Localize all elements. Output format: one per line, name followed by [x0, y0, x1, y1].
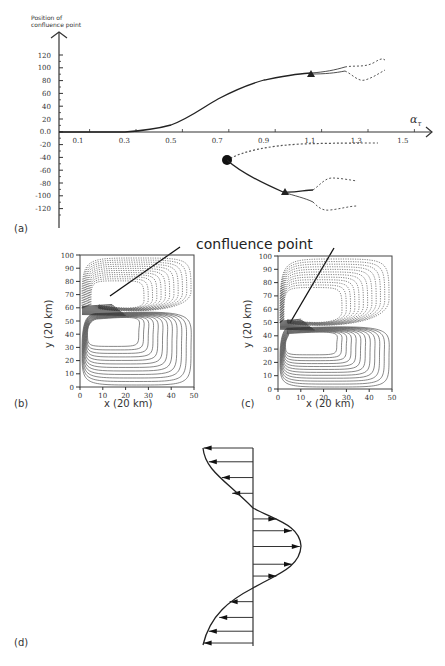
y-tick-label: 90	[65, 265, 74, 273]
y-tick-label: 70	[263, 292, 272, 300]
contour-line-solid	[84, 314, 178, 375]
panel-b: 010203040506070809010001020304050 x (20 …	[14, 252, 198, 410]
x-tick-label: 10	[296, 394, 305, 402]
panel-label-b: (b)	[14, 398, 28, 409]
y-axis-label-c: y (20 km)	[242, 300, 253, 348]
arrowhead-icon	[209, 459, 217, 464]
confluence-point-annotation: confluence point	[196, 236, 313, 252]
contour-line-dashed	[281, 269, 371, 324]
contour-line-dashed	[284, 288, 342, 323]
panel-label-d: (d)	[14, 637, 28, 648]
y-tick-label: 40	[263, 332, 272, 340]
jet-contour	[82, 309, 118, 310]
x-tick-label: 0	[78, 392, 82, 400]
x-tick-label: 1.3	[351, 137, 362, 145]
panel-c: 010203040506070809010001020304050 x (20 …	[241, 253, 396, 410]
y-tick-label: 80	[65, 278, 74, 286]
contour-line-solid	[284, 330, 357, 366]
contour-line-solid	[88, 317, 140, 346]
y-tick-label: 50	[263, 319, 272, 327]
contours-b	[82, 258, 191, 385]
y-tick-label: 80	[263, 279, 272, 287]
y-tick-label: 0.0	[40, 128, 51, 136]
x-tick-label: 0.7	[212, 137, 223, 145]
arrowhead-icon	[219, 615, 227, 620]
x-tick-label: 0	[276, 394, 280, 402]
arrowhead-icon	[284, 528, 292, 533]
y-tick-label: 60	[263, 306, 272, 314]
y-tick-label: 10	[65, 370, 74, 378]
y-tick-label: 100	[61, 252, 74, 260]
y-axis-label-b: y (20 km)	[43, 300, 54, 348]
arrowhead-icon	[222, 475, 230, 480]
contour-line-dashed	[84, 264, 178, 310]
arrowhead-icon	[209, 629, 217, 634]
y-axis-label-line1: Position of	[31, 14, 63, 21]
y-tick-label: 30	[263, 346, 272, 354]
panel-d: (d)	[14, 446, 301, 649]
y-tick-label: -20	[40, 141, 51, 149]
contour-line-solid	[282, 328, 376, 378]
panel-label-a: (a)	[14, 223, 28, 234]
y-tick-label: -100	[35, 192, 51, 200]
contour-line-dashed	[280, 259, 389, 325]
unstable-branch-dashed	[227, 143, 378, 160]
y-axis-label-line2: confluence point	[31, 21, 82, 29]
y-tick-label: -80	[40, 180, 51, 188]
x-tick-label: 0.5	[165, 137, 176, 145]
y-tick-label: 70	[65, 291, 74, 299]
y-tick-label: 0	[268, 386, 272, 394]
y-tick-label: 90	[263, 266, 272, 274]
x-tick-label: 1.5	[397, 137, 408, 145]
contour-line-solid	[286, 332, 338, 355]
arrowhead-icon	[204, 641, 212, 646]
contour-line-dashed	[87, 270, 165, 309]
lower-branch-dashed-b	[313, 202, 357, 210]
x-tick-label: 0.3	[119, 137, 130, 145]
x-tick-label: 40	[365, 394, 374, 402]
x-axis-label-b: x (20 km)	[104, 398, 152, 409]
y-tick-label: 100	[38, 64, 51, 72]
y-tick-label: 60	[65, 304, 74, 312]
x-tick-label: 40	[167, 392, 176, 400]
y-tick-label: 100	[259, 253, 272, 261]
upper-branch-dashed-a	[345, 59, 385, 67]
upper-branch-solid	[59, 73, 311, 132]
panel-label-c: (c)	[241, 398, 254, 409]
arrowhead-icon	[292, 544, 300, 549]
x-tick-label: 0.1	[72, 137, 83, 145]
contour-line-solid	[84, 314, 172, 371]
y-tick-label: 20	[65, 357, 74, 365]
upper-branch-dashed-b	[345, 70, 385, 80]
y-tick-label: -60	[40, 167, 51, 175]
y-tick-label: 40	[42, 103, 51, 111]
x-tick-label: 50	[388, 394, 397, 402]
figure-canvas: Position of confluence point ατ 12010080…	[0, 0, 445, 666]
y-tick-label: 20	[263, 359, 272, 367]
y-tick-label: 20	[42, 116, 51, 124]
y-tick-label: 30	[65, 344, 74, 352]
contour-line-dashed	[90, 279, 148, 308]
lower-branch-dashed-a	[313, 178, 357, 190]
y-tick-label: 40	[65, 331, 74, 339]
y-tick-label: 0	[70, 384, 74, 392]
jet-contour	[82, 310, 120, 311]
contour-line-solid	[282, 329, 370, 376]
contour-line-dashed	[86, 268, 170, 309]
y-tick-label: -120	[35, 205, 51, 213]
y-tick-label: 120	[38, 52, 51, 60]
x-tick-label: 50	[190, 392, 199, 400]
y-tick-label: 10	[263, 372, 272, 380]
x-axis-label: ατ	[410, 113, 421, 128]
contours-c	[280, 259, 389, 387]
panel-a: Position of confluence point ατ 12010080…	[14, 14, 432, 234]
arrowhead-icon	[204, 446, 212, 451]
x-tick-label: 0.9	[258, 137, 269, 145]
contour-line-dashed	[280, 262, 384, 326]
lower-branch-solid	[227, 160, 313, 192]
y-tick-label: 60	[42, 90, 51, 98]
x-axis-label-c: x (20 km)	[306, 398, 354, 409]
y-tick-label: 80	[42, 77, 51, 85]
contour-line-dashed	[91, 281, 144, 308]
y-tick-label: -40	[40, 154, 51, 162]
